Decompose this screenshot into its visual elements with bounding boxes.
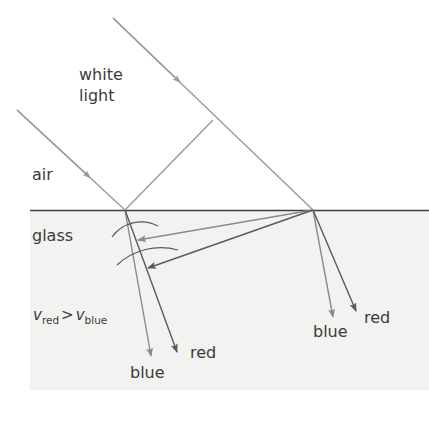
glass-medium-region <box>30 211 429 390</box>
formula-red-subscript: red <box>42 314 59 326</box>
label-red-left: red <box>190 343 216 362</box>
label-white-light-line1: white <box>79 65 123 84</box>
label-blue-left: blue <box>130 363 165 382</box>
formula-operator: > <box>59 306 76 324</box>
label-blue-right: blue <box>313 322 348 341</box>
label-air: air <box>32 165 53 184</box>
formula-v-blue-symbol: v <box>76 306 85 324</box>
label-red-right: red <box>364 308 390 327</box>
reflected-ray-upward <box>125 120 213 210</box>
dispersion-diagram: white light air glass vred>vblue blue re… <box>0 0 429 425</box>
label-white-light: white light <box>79 64 149 106</box>
incident-air-ray-arrow <box>17 110 90 178</box>
label-white-light-line2: light <box>79 86 114 105</box>
formula-v-red-symbol: v <box>33 306 42 324</box>
velocity-relation-formula: vred>vblue <box>33 306 107 326</box>
formula-blue-subscript: blue <box>85 314 108 326</box>
label-glass: glass <box>32 226 73 245</box>
